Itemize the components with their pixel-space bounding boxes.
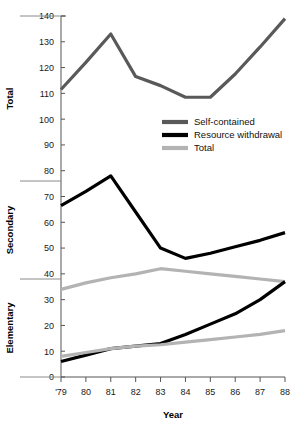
panel-axis-title: Secondary [4, 205, 15, 254]
y-tick-label: 40 [44, 269, 54, 279]
panel-axis-title: Total [4, 88, 15, 110]
y-tick-label: 110 [40, 89, 54, 99]
y-tick-label: 130 [39, 37, 54, 47]
x-tick-label: 85 [205, 387, 215, 397]
line-chart-canvas: 0102030405060708090100110120130140'79808… [0, 0, 295, 432]
x-tick-label: 86 [230, 387, 240, 397]
chart-figure: 0102030405060708090100110120130140'79808… [0, 0, 295, 432]
data-series-line [61, 19, 285, 98]
x-tick-label: 83 [156, 387, 166, 397]
y-tick-label: 20 [44, 321, 54, 331]
y-tick-label: 30 [44, 295, 54, 305]
x-axis-title: Year [163, 409, 183, 420]
y-tick-label: 120 [39, 63, 54, 73]
y-tick-label: 50 [44, 243, 54, 253]
data-series-line [61, 269, 285, 290]
panel-axis-title: Elementary [4, 302, 15, 354]
y-tick-label: 10 [44, 347, 54, 357]
x-tick-label: 80 [81, 387, 91, 397]
data-series-line [61, 331, 285, 357]
y-tick-label: 80 [44, 166, 54, 176]
x-tick-label: 87 [255, 387, 265, 397]
data-series-line [61, 176, 285, 259]
x-tick-label: 81 [106, 387, 116, 397]
x-tick-label: 88 [280, 387, 290, 397]
legend-label: Total [194, 142, 214, 153]
y-tick-label: 70 [44, 192, 54, 202]
legend-label: Resource withdrawal [194, 129, 282, 140]
y-tick-label: 90 [44, 140, 54, 150]
x-tick-label: 84 [180, 387, 190, 397]
x-tick-label: '79 [55, 387, 67, 397]
x-tick-label: 82 [131, 387, 141, 397]
y-tick-label: 60 [44, 218, 54, 228]
y-tick-label: 100 [39, 115, 54, 125]
legend-label: Self-contained [194, 116, 255, 127]
